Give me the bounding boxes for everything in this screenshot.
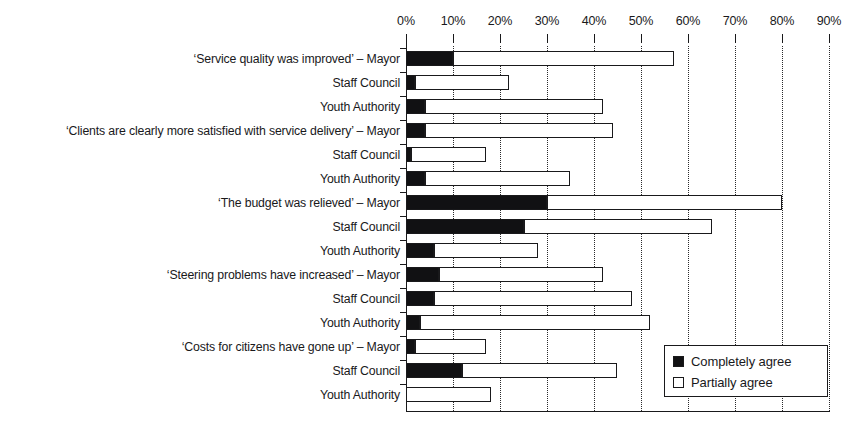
x-axis-tickmark xyxy=(782,34,783,43)
x-axis-tickmark xyxy=(453,34,454,43)
y-axis-tickmark xyxy=(400,72,407,73)
legend-item-completely-agree: Completely agree xyxy=(673,351,827,372)
bar-segment-partially-agree xyxy=(425,99,604,114)
x-axis-tick-label: 50% xyxy=(621,14,661,28)
bar-segment-partially-agree xyxy=(434,291,631,306)
bar-segment-partially-agree xyxy=(411,147,486,162)
x-axis-tickmark xyxy=(641,34,642,43)
legend-swatch-partially-agree xyxy=(673,377,684,388)
y-axis-category-label: ‘The budget was relieved’ – Mayor xyxy=(218,196,400,210)
y-axis-category-label: ‘Steering problems have increased’ – May… xyxy=(167,268,400,282)
y-axis-category-label: Staff Council xyxy=(332,76,400,90)
bar-row xyxy=(406,267,603,282)
x-axis-tickmark xyxy=(500,34,501,43)
y-axis-category-label: Youth Authority xyxy=(320,388,400,402)
x-axis-tick-label: 80% xyxy=(762,14,802,28)
x-axis-tick-label: 20% xyxy=(480,14,520,28)
y-axis-tickmark xyxy=(400,264,407,265)
x-axis-line xyxy=(406,411,830,412)
x-axis-tick-label: 60% xyxy=(668,14,708,28)
x-axis-tick-label: 10% xyxy=(433,14,473,28)
y-axis-tickmark xyxy=(400,120,407,121)
legend-swatch-completely-agree xyxy=(673,356,684,367)
y-axis-category-label: Staff Council xyxy=(332,292,400,306)
legend-item-partially-agree: Partially agree xyxy=(673,372,827,393)
x-axis-tickmark xyxy=(547,34,548,43)
y-axis-category-label: Youth Authority xyxy=(320,316,400,330)
y-axis-tickmark xyxy=(400,216,407,217)
y-axis-category-label: Staff Council xyxy=(332,364,400,378)
bar-segment-completely-agree xyxy=(406,315,420,330)
bar-row xyxy=(406,147,486,162)
bar-segment-partially-agree xyxy=(462,363,617,378)
y-axis-category-label: ‘Clients are clearly more satisfied with… xyxy=(66,124,400,138)
bar-segment-completely-agree xyxy=(406,291,434,306)
x-axis-tickmark xyxy=(406,34,407,43)
bar-segment-partially-agree xyxy=(524,219,712,234)
bar-segment-completely-agree xyxy=(406,219,524,234)
x-axis-tick-label: 70% xyxy=(715,14,755,28)
y-axis-tickmark xyxy=(400,240,407,241)
x-axis-tickmark xyxy=(735,34,736,43)
y-axis-tickmark xyxy=(400,360,407,361)
bar-segment-partially-agree xyxy=(439,267,604,282)
y-axis-category-label: Youth Authority xyxy=(320,100,400,114)
bar-segment-completely-agree xyxy=(406,195,547,210)
legend-label-completely-agree: Completely agree xyxy=(691,354,791,369)
y-axis-tickmark xyxy=(400,144,407,145)
bar-segment-partially-agree xyxy=(425,123,613,138)
y-axis-tickmark xyxy=(400,168,407,169)
y-axis-tickmark xyxy=(400,288,407,289)
bar-segment-completely-agree xyxy=(406,51,453,66)
bar-row xyxy=(406,123,613,138)
y-axis-tickmark xyxy=(400,312,407,313)
bar-row xyxy=(406,363,618,378)
y-axis-category-label: ‘Costs for citizens have gone up’ – Mayo… xyxy=(182,340,400,354)
y-axis-category-label: Youth Authority xyxy=(320,244,400,258)
bar-segment-completely-agree xyxy=(406,339,415,354)
bar-segment-partially-agree xyxy=(415,75,509,90)
y-axis-category-label: Staff Council xyxy=(332,148,400,162)
bar-row xyxy=(406,51,674,66)
bar-segment-partially-agree xyxy=(420,315,650,330)
gridline xyxy=(829,46,831,411)
x-axis-tick-label: 40% xyxy=(574,14,614,28)
chart-figure: 0%10%20%30%40%50%60%70%80%90% ‘Service q… xyxy=(0,0,868,429)
bar-segment-completely-agree xyxy=(406,75,415,90)
bar-segment-completely-agree xyxy=(406,243,434,258)
bar-row xyxy=(406,195,782,210)
y-axis-tickmark xyxy=(400,48,407,49)
bar-row xyxy=(406,219,712,234)
bar-row xyxy=(406,171,571,186)
bar-segment-completely-agree xyxy=(406,267,439,282)
x-axis-tick-label: 0% xyxy=(386,14,426,28)
legend-label-partially-agree: Partially agree xyxy=(691,375,773,390)
y-axis-tickmark xyxy=(400,336,407,337)
y-axis-category-label: ‘Service quality was improved’ – Mayor xyxy=(194,52,400,66)
y-axis-tickmark xyxy=(400,192,407,193)
x-axis-tickmark xyxy=(594,34,595,43)
y-axis-category-label: Staff Council xyxy=(332,220,400,234)
bar-segment-partially-agree xyxy=(415,339,486,354)
bar-segment-completely-agree xyxy=(406,363,462,378)
bar-row xyxy=(406,99,603,114)
bar-row xyxy=(406,339,486,354)
y-axis-tickmark xyxy=(400,96,407,97)
bar-row xyxy=(406,387,491,402)
x-axis-tick-label: 90% xyxy=(809,14,849,28)
bar-segment-completely-agree xyxy=(406,99,425,114)
bar-row xyxy=(406,315,650,330)
bar-segment-partially-agree xyxy=(425,171,571,186)
bar-row xyxy=(406,243,538,258)
legend: Completely agree Partially agree xyxy=(664,345,828,397)
bar-row xyxy=(406,75,509,90)
y-axis-tickmark xyxy=(400,384,407,385)
bar-segment-partially-agree xyxy=(434,243,537,258)
bar-segment-partially-agree xyxy=(453,51,674,66)
bar-row xyxy=(406,291,632,306)
bar-segment-completely-agree xyxy=(406,123,425,138)
bar-segment-partially-agree xyxy=(406,387,491,402)
bar-segment-completely-agree xyxy=(406,171,425,186)
y-axis-category-label: Youth Authority xyxy=(320,172,400,186)
bar-segment-partially-agree xyxy=(547,195,782,210)
